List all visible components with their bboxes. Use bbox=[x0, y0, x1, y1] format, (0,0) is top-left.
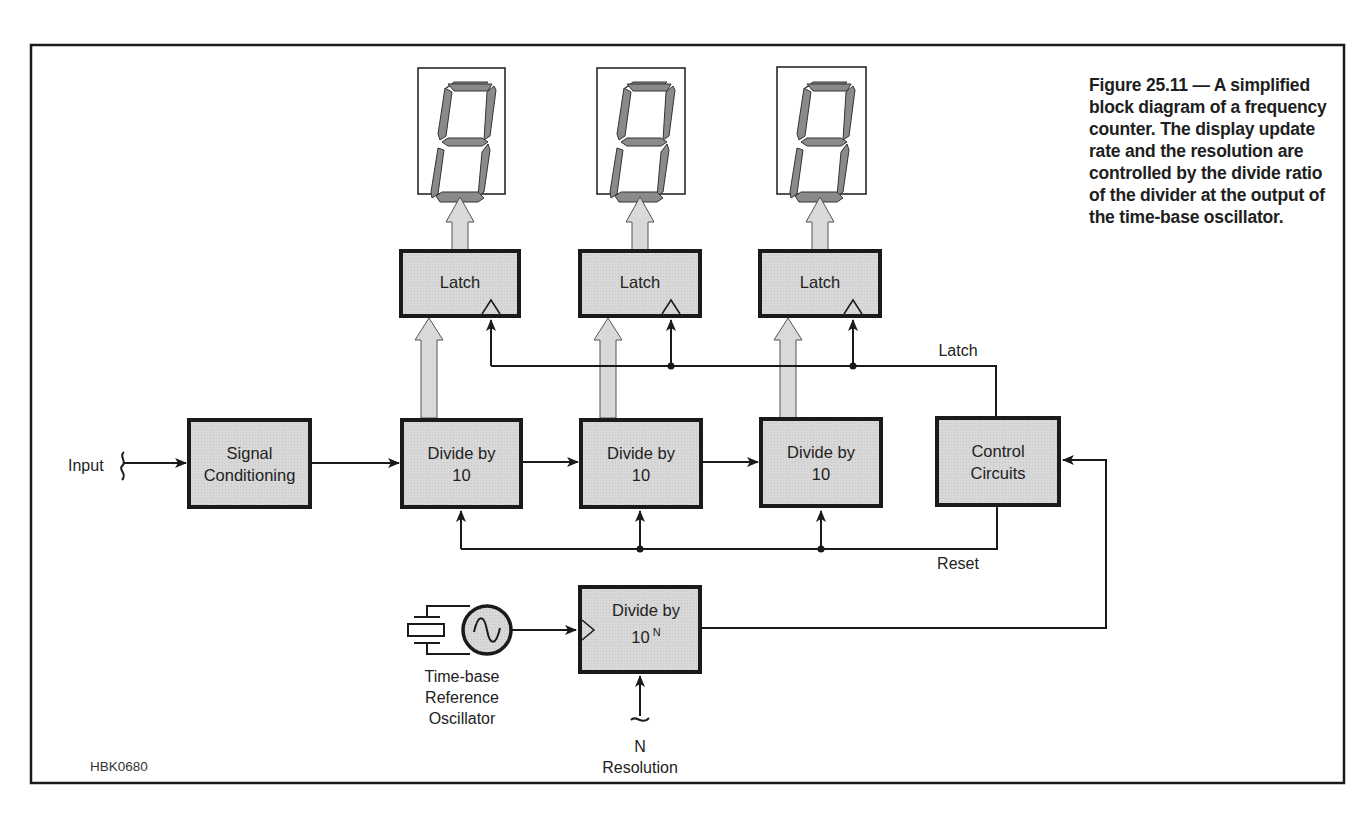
oscillator-label: Time-base Reference Oscillator bbox=[412, 666, 512, 729]
bus-arrow-divider-latch bbox=[415, 318, 802, 418]
latch-3-label: Latch bbox=[800, 271, 840, 293]
divider-1-line2: 10 bbox=[452, 464, 470, 486]
display-3 bbox=[777, 67, 866, 202]
divider-3-line2: 10 bbox=[812, 463, 830, 485]
resolution-input bbox=[631, 676, 649, 721]
bus-arrow-latch-display bbox=[446, 197, 834, 250]
resolution-n: N bbox=[590, 736, 690, 757]
display-1 bbox=[418, 68, 505, 202]
figure-caption: Figure 25.11 — A simplified block diagra… bbox=[1089, 74, 1339, 228]
oscillator-symbol bbox=[408, 606, 594, 654]
divider-block-1: Divide by 10 bbox=[402, 420, 521, 507]
divider-2-line2: 10 bbox=[632, 464, 650, 486]
oscillator-line1: Time-base bbox=[412, 666, 512, 687]
reset-signal-label: Reset bbox=[928, 553, 988, 574]
divider-block-2: Divide by 10 bbox=[581, 420, 701, 507]
divider-2-line1: Divide by bbox=[607, 442, 675, 464]
latch-2-label: Latch bbox=[620, 271, 660, 293]
control-line1: Control bbox=[971, 440, 1024, 462]
latch-signal-lines bbox=[491, 320, 996, 418]
oscillator-line2: Reference bbox=[412, 687, 512, 708]
display-2 bbox=[597, 68, 685, 202]
resolution-label: N Resolution bbox=[590, 736, 690, 778]
latch-1-label: Latch bbox=[440, 271, 480, 293]
divide-n-line1: Divide by bbox=[612, 599, 680, 621]
divide-n-exponent: N bbox=[653, 626, 661, 638]
figure-code: HBK0680 bbox=[90, 759, 148, 774]
divider-3-line1: Divide by bbox=[787, 441, 855, 463]
divider-1-line1: Divide by bbox=[428, 442, 496, 464]
oscillator-line3: Oscillator bbox=[412, 708, 512, 729]
latch-block-2: Latch bbox=[580, 251, 700, 316]
latch-block-3: Latch bbox=[760, 251, 880, 316]
divide-n-line2: 10N bbox=[631, 621, 660, 648]
reset-signal-lines bbox=[461, 507, 997, 549]
latch-block-1: Latch bbox=[401, 251, 519, 316]
latch-signal-label: Latch bbox=[928, 340, 988, 361]
control-line2: Circuits bbox=[970, 462, 1025, 484]
signal-conditioning-line1: Signal bbox=[227, 442, 273, 464]
resolution-text: Resolution bbox=[590, 757, 690, 778]
divider-block-3: Divide by 10 bbox=[761, 419, 881, 506]
signal-conditioning-line2: Conditioning bbox=[204, 464, 296, 486]
divide-by-10n-block: Divide by 10N bbox=[586, 587, 706, 672]
control-circuits-block: Control Circuits bbox=[937, 418, 1059, 505]
signal-conditioning-block: Signal Conditioning bbox=[189, 420, 310, 507]
input-label: Input bbox=[68, 455, 114, 476]
